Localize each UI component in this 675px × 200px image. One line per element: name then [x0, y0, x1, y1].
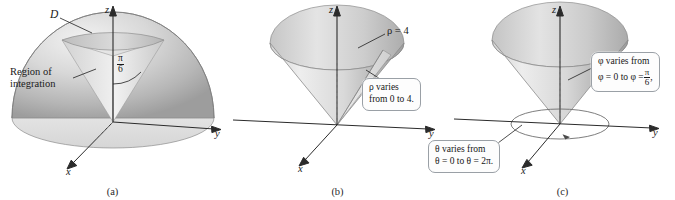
surface-label-d: D	[50, 8, 58, 21]
panel-a: z y x D Region of integration π 6 (a)	[0, 0, 225, 200]
y-axis-label: y	[429, 128, 434, 140]
z-axis-label: z	[552, 4, 556, 16]
y-axis-label: y	[653, 127, 658, 139]
x-axis-label: x	[298, 163, 303, 175]
rho-callout-line-2: from 0 to 4.	[369, 94, 414, 106]
panel-b-caption: (b)	[225, 186, 450, 197]
theta-callout-line-1: θ varies from	[435, 144, 493, 156]
rho-equation-label: ρ = 4	[387, 25, 409, 37]
panel-a-caption: (a)	[0, 186, 225, 197]
phi-callout-line-2: φ = 0 to φ = π 6 ,	[598, 68, 653, 87]
rho-callout-line-1: ρ varies	[369, 82, 414, 94]
phi-callout-line-2-prefix: φ = 0 to φ =	[598, 72, 644, 82]
theta-callout: θ varies from θ = 0 to θ = 2π.	[428, 140, 500, 173]
panel-c-caption: (c)	[450, 186, 675, 197]
y-axis-label: y	[215, 128, 220, 140]
region-label-line-2: integration	[10, 78, 56, 89]
z-axis-label: z	[329, 4, 333, 16]
x-axis-label: x	[521, 165, 526, 177]
x-axis-label: x	[66, 166, 71, 178]
panel-c: z y x φ varies from φ = 0 to φ = π 6 , θ…	[450, 0, 675, 200]
rho-callout: ρ varies from 0 to 4.	[362, 78, 421, 111]
spherical-coordinates-figure: z y x D Region of integration π 6 (a)	[0, 0, 675, 200]
region-of-integration-label: Region of integration	[10, 66, 56, 91]
panel-b: z y x ρ = 4 ρ varies from 0 to 4. (b)	[225, 0, 450, 200]
phi-callout-line-2-suffix: ,	[650, 72, 652, 82]
phi-callout: φ varies from φ = 0 to φ = π 6 ,	[591, 52, 660, 92]
angle-denominator: 6	[117, 65, 124, 75]
z-axis-label: z	[105, 4, 109, 16]
angle-label-pi-over-6: π 6	[117, 54, 124, 75]
panel-a-artwork	[0, 0, 225, 200]
theta-callout-line-2: θ = 0 to θ = 2π.	[435, 156, 493, 168]
region-label-line-1: Region of	[10, 66, 52, 77]
